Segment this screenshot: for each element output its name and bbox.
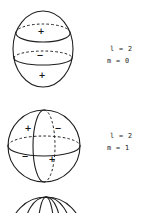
minus-sign: − bbox=[54, 123, 61, 133]
sphere-outline bbox=[10, 197, 82, 213]
minus-sign: − bbox=[36, 50, 43, 60]
figure-svg: + − + l = 2 m = 0 + − − + l = 2 m = 1 bbox=[0, 0, 143, 213]
equator-back-dashed bbox=[8, 136, 80, 146]
minus-sign: − bbox=[21, 151, 28, 161]
meridian-back-dashed bbox=[44, 110, 55, 182]
label-m-value: m = 0 bbox=[107, 57, 129, 65]
equator-front bbox=[8, 146, 80, 156]
sphere-l2-m1: + − − + bbox=[8, 110, 80, 182]
label-m-value: m = 1 bbox=[107, 144, 129, 152]
plus-sign: + bbox=[48, 154, 55, 164]
meridian-fan-left-inner bbox=[38, 197, 46, 213]
sphere-partial-cutoff bbox=[10, 197, 82, 213]
meridian-fan-right-inner bbox=[46, 197, 54, 213]
meridian-front bbox=[33, 110, 44, 182]
plus-sign: + bbox=[37, 26, 44, 36]
plus-sign: + bbox=[24, 123, 31, 133]
sphere-l2-m0: + − + bbox=[13, 11, 73, 87]
plus-sign: + bbox=[38, 70, 45, 80]
sphere-outline bbox=[8, 110, 80, 182]
label-l-value: l = 2 bbox=[110, 132, 132, 140]
label-l-value: l = 2 bbox=[110, 45, 132, 53]
spherical-harmonics-figure: + − + l = 2 m = 0 + − − + l = 2 m = 1 bbox=[0, 0, 143, 213]
